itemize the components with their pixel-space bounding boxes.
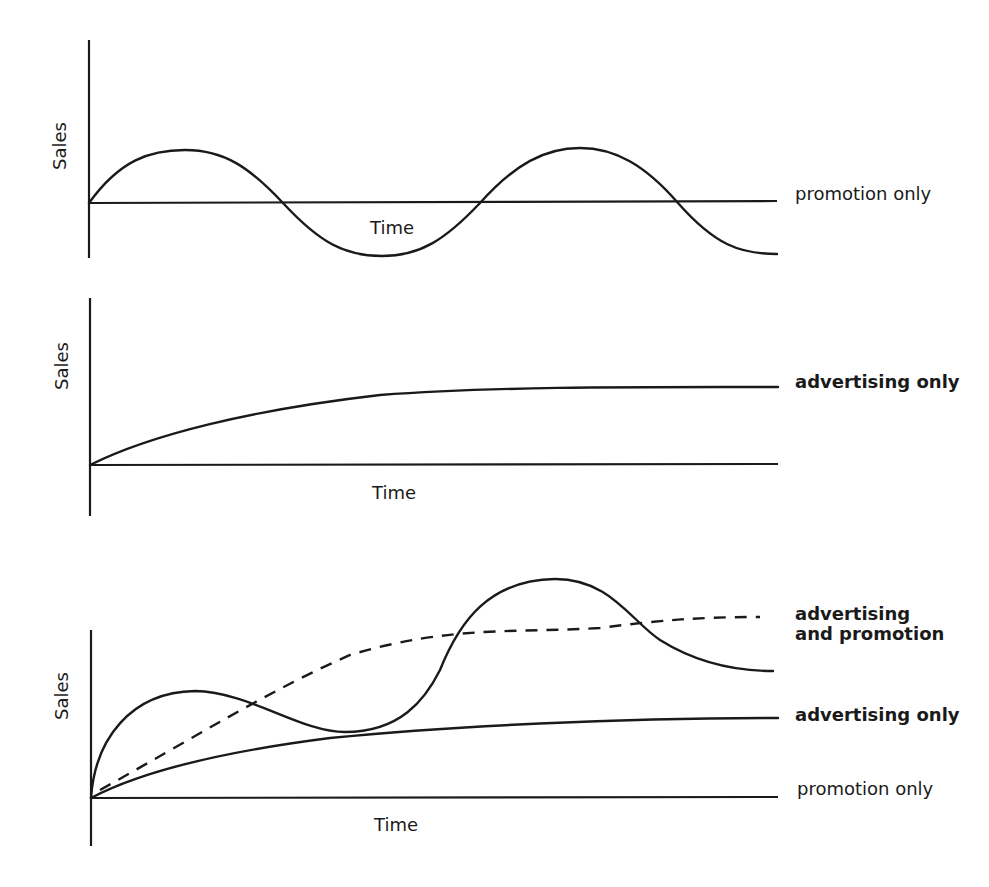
series-label-advertising-only: advertising only [795,371,960,392]
series-label-advertising-and-promotion-line1: advertising [795,603,910,624]
x-axis-label: Time [369,217,414,238]
y-axis-label: Sales [51,342,72,390]
sales-response-diagram: Sales Time promotion only Sales Time adv… [0,0,989,887]
advertising-and-promotion-curve [100,617,760,790]
advertising-only-curve [91,718,778,798]
panel-promotion-only: Sales Time promotion only [49,40,932,258]
y-axis-label: Sales [49,122,70,170]
y-axis-label: Sales [51,672,72,720]
x-axis-label: Time [371,482,416,503]
x-axis-baseline [90,464,778,465]
series-label-advertising-only: advertising only [795,704,960,725]
promotion-effect-curve [91,579,773,798]
series-label-advertising-and-promotion-line2: and promotion [795,623,944,644]
panel-advertising-only: Sales Time advertising only [51,298,960,516]
series-label-promotion-only: promotion only [797,778,934,799]
series-label-promotion-only: promotion only [795,183,932,204]
x-axis-baseline [91,797,778,798]
x-axis-label: Time [373,814,418,835]
x-axis-baseline [89,201,777,203]
panel-combined: Sales Time advertising and promotion adv… [51,579,960,846]
advertising-only-curve [90,387,778,465]
